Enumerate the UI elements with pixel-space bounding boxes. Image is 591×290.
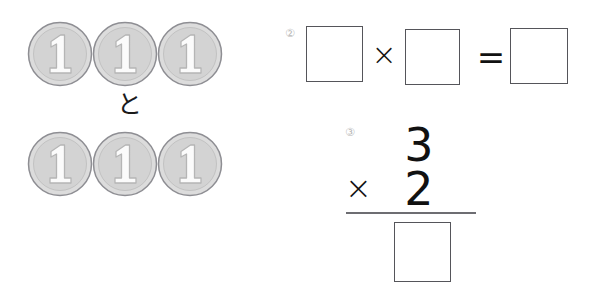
- coin-1-yen: [156, 130, 224, 198]
- problem-2-operand-a-box[interactable]: [306, 26, 363, 82]
- coin-1-yen: [26, 130, 94, 198]
- bottom-coin-row: [26, 130, 221, 198]
- problem-3-result-box[interactable]: [394, 222, 451, 282]
- coin-1-yen: [91, 20, 159, 88]
- problem-2-number-label: ②: [285, 28, 295, 39]
- problem-3-times-icon: ×: [345, 172, 372, 204]
- problem-2-result-box[interactable]: [510, 28, 568, 84]
- problem-2-equals-icon: =: [474, 40, 508, 74]
- coin-1-yen: [26, 20, 94, 88]
- problem-3-number-label: ③: [345, 127, 355, 138]
- coin-1-yen: [156, 20, 224, 88]
- top-coin-row: [26, 20, 221, 88]
- worksheet-canvas: と: [0, 0, 591, 290]
- problem-3-divider-rule: [346, 212, 476, 214]
- coin-1-yen: [91, 130, 159, 198]
- connector-character-to: と: [117, 92, 142, 117]
- problem-2-operand-b-box[interactable]: [405, 29, 460, 85]
- problem-2-times-icon: ×: [370, 40, 398, 70]
- problem-3-multiplier: 2: [398, 166, 440, 212]
